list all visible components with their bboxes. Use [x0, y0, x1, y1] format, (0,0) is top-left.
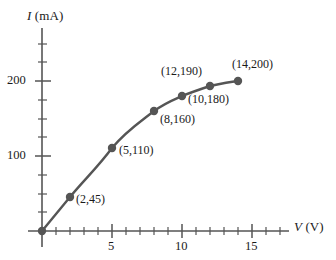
data-point-0 [38, 227, 46, 235]
data-label-12-190: (12,190) [161, 64, 202, 79]
data-label-2-45: (2,45) [76, 192, 105, 207]
data-label-10-180: (10,180) [188, 92, 229, 107]
data-label-8-160: (8,160) [160, 112, 195, 127]
data-label-5-110: (5,110) [119, 143, 154, 158]
x-tick-label-10: 10 [175, 239, 188, 254]
data-point-4 [178, 92, 186, 100]
data-point-1 [66, 193, 74, 201]
x-axis-variable: V [294, 219, 302, 234]
data-point-3 [150, 107, 158, 115]
x-tick-label-5: 5 [108, 239, 114, 254]
data-point-6 [234, 77, 242, 85]
y-tick-label-200: 200 [7, 73, 26, 88]
y-axis-title: I (mA) [27, 8, 63, 24]
x-axis-title: V (V) [294, 219, 324, 235]
y-tick-label-100: 100 [7, 148, 26, 163]
x-tick-label-15: 15 [245, 239, 258, 254]
x-axis-unit: (V) [305, 219, 323, 234]
chart-plot-area [0, 0, 336, 260]
data-label-14-200: (14,200) [232, 57, 273, 72]
y-axis-unit: (mA) [35, 8, 64, 23]
chart-figure: I (mA) V (V) 200 100 5 10 15 (2,45) (5,1… [0, 0, 336, 260]
data-point-2 [108, 144, 116, 152]
data-point-5 [206, 82, 214, 90]
